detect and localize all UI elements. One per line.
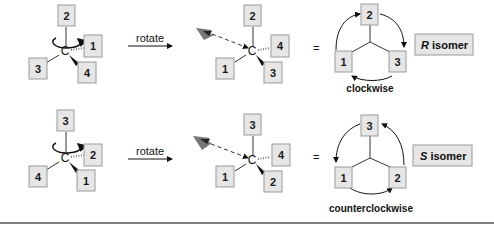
row-s-isomer: C 3 2 4 1 rotate C 3 4 1 2 xyxy=(29,110,472,214)
direction-label: counterclockwise xyxy=(329,203,413,214)
projection-box: 1 xyxy=(335,51,352,72)
row-r-isomer: C 2 1 3 4 rotate C 2 4 xyxy=(29,4,473,94)
svg-text:4: 4 xyxy=(277,40,284,52)
substituent-box: 3 xyxy=(29,58,47,79)
svg-text:1: 1 xyxy=(83,175,89,187)
substituent-box: 1 xyxy=(216,58,234,79)
svg-text:1: 1 xyxy=(340,56,346,68)
svg-text:4: 4 xyxy=(35,171,42,183)
svg-text:1: 1 xyxy=(340,172,346,184)
svg-text:rotate: rotate xyxy=(136,145,164,157)
projection: 3 1 2 counterclockwise xyxy=(329,115,413,214)
svg-text:2: 2 xyxy=(63,10,69,22)
direction-arrow xyxy=(336,124,360,162)
start-molecule: C 3 2 4 1 xyxy=(29,110,102,191)
stereochemistry-diagram: C 2 1 3 4 rotate C 2 4 xyxy=(0,0,494,227)
svg-text:1: 1 xyxy=(222,63,228,75)
carbon-center: C xyxy=(61,44,70,58)
svg-text:1: 1 xyxy=(90,40,96,52)
svg-text:1: 1 xyxy=(222,171,228,183)
substituent-box: 4 xyxy=(272,144,290,166)
rotated-molecule: C 3 4 1 2 xyxy=(216,114,290,192)
svg-text:3: 3 xyxy=(394,56,400,68)
svg-text:C: C xyxy=(248,44,257,58)
svg-text:3: 3 xyxy=(249,119,255,131)
svg-text:4: 4 xyxy=(278,149,285,161)
substituent-box: 2 xyxy=(84,144,102,166)
svg-text:S isomer: S isomer xyxy=(420,150,467,162)
svg-text:2: 2 xyxy=(249,10,255,22)
projection-box: 2 xyxy=(389,167,406,188)
svg-text:2: 2 xyxy=(270,176,276,188)
svg-text:C: C xyxy=(61,151,70,165)
projection-box: 3 xyxy=(361,115,378,136)
equals-sign: = xyxy=(313,42,319,54)
svg-text:3: 3 xyxy=(366,120,372,132)
svg-text:2: 2 xyxy=(90,149,96,161)
direction-arrow xyxy=(336,14,360,50)
svg-text:rotate: rotate xyxy=(136,32,164,44)
svg-text:R isomer: R isomer xyxy=(421,39,469,51)
rotate-arrow: rotate xyxy=(128,145,172,159)
eye-icon xyxy=(193,136,212,150)
substituent-box: 4 xyxy=(271,35,289,57)
svg-text:3: 3 xyxy=(270,67,276,79)
substituent-box: 4 xyxy=(29,166,47,187)
svg-text:C: C xyxy=(248,153,257,167)
substituent-box: 2 xyxy=(244,5,261,26)
rotated-molecule: C 2 4 1 3 xyxy=(216,5,289,83)
substituent-box: 3 xyxy=(264,62,282,83)
substituent-box: 3 xyxy=(244,114,261,135)
svg-text:2: 2 xyxy=(394,172,400,184)
substituent-box: 1 xyxy=(77,170,95,191)
substituent-box: 4 xyxy=(78,62,96,83)
projection-box: 3 xyxy=(389,51,406,72)
projection: 2 1 3 clockwise xyxy=(335,4,406,94)
equals-sign: = xyxy=(313,151,319,163)
projection-box: 2 xyxy=(361,4,378,25)
eye-icon xyxy=(196,28,214,40)
svg-text:2: 2 xyxy=(366,9,372,21)
isomer-label: R isomer xyxy=(415,34,473,55)
projection-box: 1 xyxy=(335,167,352,188)
hashed-bond xyxy=(71,48,84,50)
svg-text:3: 3 xyxy=(35,63,41,75)
substituent-box: 2 xyxy=(58,5,75,26)
svg-text:4: 4 xyxy=(84,67,91,79)
start-molecule: C 2 1 3 4 xyxy=(29,5,102,83)
substituent-box: 2 xyxy=(264,171,282,192)
rotate-arrow: rotate xyxy=(128,32,172,46)
substituent-box: 1 xyxy=(216,166,234,187)
substituent-box: 1 xyxy=(84,35,102,57)
direction-label: clockwise xyxy=(346,83,394,94)
svg-text:3: 3 xyxy=(62,115,68,127)
isomer-label: S isomer xyxy=(413,145,472,166)
substituent-box: 3 xyxy=(57,110,74,131)
view-line xyxy=(212,34,248,48)
